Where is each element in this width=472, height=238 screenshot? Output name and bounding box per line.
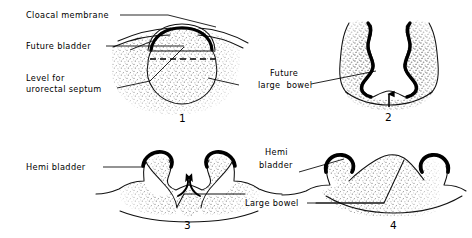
panel-1: Cloacal membrane Future bladder Level fo… (26, 10, 248, 124)
panel-number-1: 1 (179, 112, 186, 124)
panel-number-4: 4 (390, 219, 397, 231)
label-bladder-4: bladder (259, 160, 293, 170)
label-level-for: Level for (26, 73, 65, 83)
leader-cloacal-membrane (120, 15, 216, 27)
panel-number-3: 3 (184, 219, 191, 231)
label-hemi-bladder-3: Hemi bladder (26, 162, 86, 172)
panel-4-central-mass-stipple (322, 155, 464, 217)
label-future: Future (270, 68, 298, 78)
panel-4: Hemi bladder Large bowel 4 (245, 147, 466, 231)
label-cloacal-membrane: Cloacal membrane (26, 10, 109, 20)
panel-2: Future large bowel 2 (258, 21, 438, 123)
label-large-bowel: large bowel (258, 80, 312, 90)
label-future-bladder: Future bladder (26, 41, 91, 51)
label-urorectal-septum: urorectal septum (26, 84, 102, 94)
panel-number-2: 2 (385, 111, 392, 123)
panel-3: Hemi bladder 3 (26, 152, 282, 231)
panel-1-mesenchyme-stipple (112, 30, 243, 115)
panel-3-left-mass-stipple (118, 156, 176, 215)
label-hemi-4: Hemi (265, 147, 288, 157)
label-large-bowel-4: Large bowel (245, 198, 299, 208)
anatomy-figure: Cloacal membrane Future bladder Level fo… (0, 0, 472, 238)
figure-canvas: Cloacal membrane Future bladder Level fo… (0, 0, 472, 238)
